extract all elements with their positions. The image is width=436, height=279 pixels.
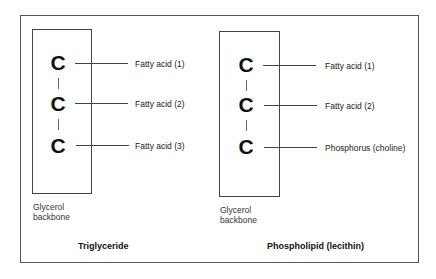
connector-line-1 <box>75 63 128 64</box>
connector-line-3 <box>76 145 129 146</box>
attachment-label-3: Fatty acid (3) <box>135 141 185 151</box>
attachment-label-1: Fatty acid (1) <box>325 61 375 71</box>
connector-line-1 <box>263 65 316 66</box>
connector-line-3 <box>264 147 317 148</box>
carbon-bond-2-3 <box>58 119 59 130</box>
carbon-atom-1: C <box>48 52 68 73</box>
backbone-caption-line1: Glycerol <box>220 205 257 215</box>
carbon-bond-2-3 <box>246 120 247 131</box>
connector-line-2 <box>264 105 317 106</box>
attachment-label-2: Fatty acid (2) <box>135 99 185 109</box>
backbone-caption-line1: Glycerol <box>33 202 70 212</box>
attachment-label-2: Fatty acid (2) <box>325 101 375 111</box>
panel-title: Phospholipid (lecithin) <box>267 241 364 251</box>
backbone-caption-line2: backbone <box>33 212 70 222</box>
carbon-atom-3: C <box>48 135 68 156</box>
carbon-atom-2: C <box>236 94 256 115</box>
carbon-atom-1: C <box>236 54 256 75</box>
carbon-bond-1-2 <box>58 78 59 89</box>
backbone-caption-line2: backbone <box>220 215 257 225</box>
attachment-label-1: Fatty acid (1) <box>135 59 185 69</box>
panel-title: Triglyceride <box>78 241 129 251</box>
backbone-caption: Glycerol backbone <box>220 205 257 225</box>
carbon-atom-2: C <box>48 93 68 114</box>
attachment-label-3: Phosphorus (choline) <box>325 143 405 153</box>
backbone-caption: Glycerol backbone <box>33 202 70 222</box>
connector-line-2 <box>75 103 128 104</box>
carbon-atom-3: C <box>236 136 256 157</box>
carbon-bond-1-2 <box>246 80 247 91</box>
